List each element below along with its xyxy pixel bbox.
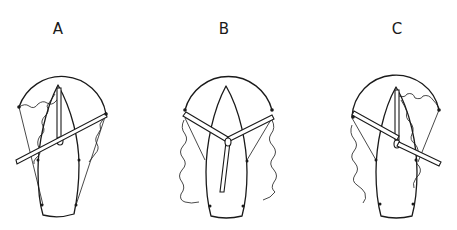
mast-a <box>57 88 61 138</box>
panel-a-drawing <box>16 76 108 216</box>
diagram-canvas <box>0 0 457 230</box>
panel-b-drawing <box>180 77 277 218</box>
panel-c-drawing <box>351 75 441 218</box>
canopy-arc-b <box>185 77 272 110</box>
mast-c <box>395 90 399 140</box>
boom-b-port <box>183 112 228 141</box>
canopy-arc-a <box>19 76 106 114</box>
boom-c-aft <box>397 142 441 166</box>
boom-c <box>352 111 399 140</box>
pole-b <box>220 142 230 192</box>
boom-b-starboard <box>228 115 274 141</box>
sail-rig-diagram: A B C <box>0 0 457 230</box>
